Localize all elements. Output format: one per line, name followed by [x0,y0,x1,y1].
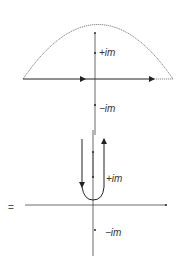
equals-sign: = [8,203,14,213]
pole-minus-im [94,104,96,106]
top-contour [23,25,173,136]
label-plus-im-bottom: +im [106,174,122,184]
contour-diagram [0,0,182,269]
label-minus-im-bottom: −im [105,228,121,238]
pole-minus-im [94,229,96,231]
bottom-contour [25,130,167,256]
label-minus-im-top: −im [99,104,115,114]
pole-plus-im [94,52,96,54]
semicircle-arc [23,25,173,80]
pole-plus-im [92,176,94,178]
label-plus-im-top: +im [99,48,115,58]
